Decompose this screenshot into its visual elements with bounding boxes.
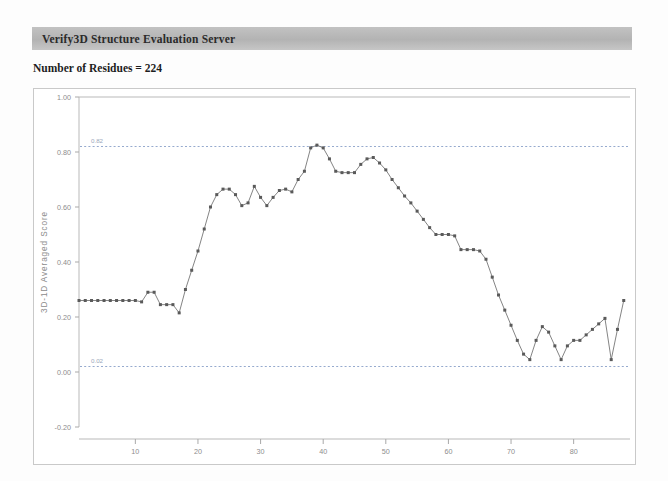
score-data-point (428, 226, 431, 229)
score-data-point (541, 325, 544, 328)
score-data-point (491, 276, 494, 279)
x-tick-label: 40 (319, 447, 327, 456)
score-data-point (522, 353, 525, 356)
score-data-point (247, 201, 250, 204)
y-tick-label: 0.40 (57, 258, 71, 267)
score-data-point (603, 317, 606, 320)
score-data-point (484, 258, 487, 261)
score-data-point (403, 195, 406, 198)
score-data-point (140, 300, 143, 303)
score-data-point (146, 291, 149, 294)
score-data-point (553, 344, 556, 347)
score-data-point (96, 299, 99, 302)
score-data-point (535, 339, 538, 342)
score-data-point (353, 171, 356, 174)
score-data-point (165, 303, 168, 306)
score-data-point (290, 190, 293, 193)
score-data-point (397, 186, 400, 189)
score-data-point (434, 233, 437, 236)
score-data-point (90, 299, 93, 302)
score-data-point (134, 299, 137, 302)
score-data-point (478, 250, 481, 253)
score-data-point (453, 234, 456, 237)
score-data-point (228, 188, 231, 191)
score-data-point (115, 299, 118, 302)
score-data-point (209, 206, 212, 209)
score-data-point (528, 358, 531, 361)
score-data-point (334, 170, 337, 173)
score-data-point (441, 233, 444, 236)
score-data-point (447, 233, 450, 236)
score-data-point (422, 218, 425, 221)
score-data-point (265, 204, 268, 207)
residue-count-label: Number of Residues = 224 (33, 62, 162, 74)
score-data-point (378, 162, 381, 165)
score-data-point (566, 344, 569, 347)
y-axis-title: 3D-1D Averaged Score (40, 211, 49, 313)
reference-line-label: 0.02 (91, 357, 104, 364)
score-data-point (459, 248, 462, 251)
score-data-point (359, 163, 362, 166)
score-data-point (222, 188, 225, 191)
page-header-bar: Verify3D Structure Evaluation Server (32, 27, 632, 50)
chart-panel: 1.000.800.600.400.200.00-0.203D-1D Avera… (33, 88, 636, 465)
score-data-point (309, 146, 312, 149)
score-data-point (315, 144, 318, 147)
score-data-point (340, 171, 343, 174)
score-data-point (109, 299, 112, 302)
score-data-point (416, 210, 419, 213)
score-data-point (184, 288, 187, 291)
score-data-point (178, 311, 181, 314)
score-data-point (190, 269, 193, 272)
score-data-point (328, 157, 331, 160)
score-data-point (278, 189, 281, 192)
score-data-point (322, 146, 325, 149)
score-data-point (366, 157, 369, 160)
score-data-point (572, 339, 575, 342)
y-tick-label: 0.20 (57, 313, 71, 322)
score-data-point (121, 299, 124, 302)
score-data-point (560, 358, 563, 361)
score-data-point (272, 196, 275, 199)
score-data-point (466, 248, 469, 251)
score-data-point (284, 188, 287, 191)
score-data-point (616, 328, 619, 331)
x-tick-label: 60 (444, 447, 452, 456)
score-data-point (497, 294, 500, 297)
x-tick-label: 20 (194, 447, 202, 456)
score-data-point (585, 333, 588, 336)
score-data-point (234, 193, 237, 196)
score-data-point (510, 324, 513, 327)
y-tick-label: 0.60 (57, 203, 71, 212)
score-data-point (297, 178, 300, 181)
score-data-point (516, 339, 519, 342)
score-data-point (259, 196, 262, 199)
score-data-point (159, 303, 162, 306)
score-data-point (347, 171, 350, 174)
score-data-point (303, 170, 306, 173)
score-data-point (203, 228, 206, 231)
score-data-point (622, 299, 625, 302)
score-data-point (153, 291, 156, 294)
score-data-point (384, 168, 387, 171)
score-data-point (215, 193, 218, 196)
score-data-point (253, 185, 256, 188)
score-data-point (372, 156, 375, 159)
y-tick-label: 0.00 (57, 368, 71, 377)
page-title: Verify3D Structure Evaluation Server (32, 33, 235, 45)
score-data-point (103, 299, 106, 302)
y-tick-label: 1.00 (57, 93, 71, 102)
score-data-point (391, 178, 394, 181)
score-data-point (503, 309, 506, 312)
score-data-point (409, 201, 412, 204)
score-data-point (547, 331, 550, 334)
reference-line-label: 0.82 (91, 137, 104, 144)
score-data-point (610, 358, 613, 361)
y-tick-label: 0.80 (57, 148, 71, 157)
x-tick-label: 70 (507, 447, 515, 456)
y-tick-label: -0.20 (55, 423, 71, 432)
x-tick-label: 80 (570, 447, 578, 456)
score-data-point (171, 303, 174, 306)
x-tick-label: 50 (382, 447, 390, 456)
score-data-point (578, 339, 581, 342)
